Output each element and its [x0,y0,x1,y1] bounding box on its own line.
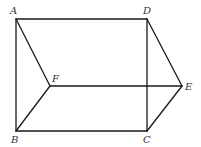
vertex-labels: A D E C B F [9,5,193,145]
edge-a-f [16,19,50,86]
edge-f-b [16,86,50,131]
geometric-diagram: A D E C B F [0,0,201,147]
vertex-label-b: B [10,134,18,145]
edges [16,19,182,131]
vertex-label-f: F [51,73,60,84]
edge-c-e [147,86,182,131]
vertex-label-e: E [184,81,193,92]
edge-d-e [147,19,182,86]
vertex-label-c: C [143,134,151,145]
vertex-label-d: D [142,5,151,16]
vertex-label-a: A [9,5,17,16]
